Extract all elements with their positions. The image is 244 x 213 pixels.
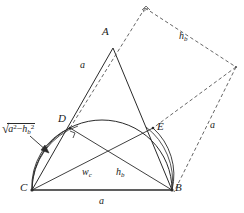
point-label-c: C <box>20 182 27 193</box>
right-angle-marker-at-d <box>70 131 75 138</box>
arc-centered-at-c-outer <box>32 126 78 190</box>
vertex-dot-q <box>235 66 237 68</box>
point-label-b: B <box>175 182 182 193</box>
point-label-d: D <box>58 113 66 124</box>
segment-label-dashed-top-sub: b <box>184 35 188 43</box>
segment-label-dashed-top: hb <box>179 31 188 43</box>
dashed-edge-q-to-e <box>153 67 236 128</box>
segment-label-cevian-ce: hb <box>116 167 125 179</box>
vertex-dot-d <box>69 127 72 130</box>
vertex-dot-c <box>30 188 33 191</box>
segment-label-side-ca: a <box>80 60 85 70</box>
segment-label-base-cb: a <box>99 196 104 206</box>
radical-inner-expression: a2−hb2 <box>7 123 35 136</box>
side-ca <box>32 48 113 190</box>
segment-label-cevian-ce-sub: b <box>121 171 125 179</box>
segment-label-dashed-right: a <box>210 120 215 130</box>
vertex-dot-e <box>152 127 155 130</box>
geometry-figure: A B C D E a a wc hb hb a √a2−hb2 <box>0 0 244 213</box>
vertex-dot-b <box>170 188 173 191</box>
dashed-edge-q-to-b <box>174 67 236 192</box>
radical-label-sqrt-a-squared-minus-hb-squared: √a2−hb2 <box>2 122 35 136</box>
dashed-edge-p-to-q <box>145 8 236 67</box>
segment-label-cevian-bd-base: w <box>82 166 89 177</box>
geometry-drawing-canvas <box>0 0 244 213</box>
segment-label-cevian-bd-sub: c <box>89 171 92 179</box>
radical-exp2: 2 <box>31 123 35 131</box>
segment-label-cevian-bd: wc <box>82 167 92 179</box>
point-label-e: E <box>157 121 164 132</box>
point-label-a: A <box>102 26 109 37</box>
